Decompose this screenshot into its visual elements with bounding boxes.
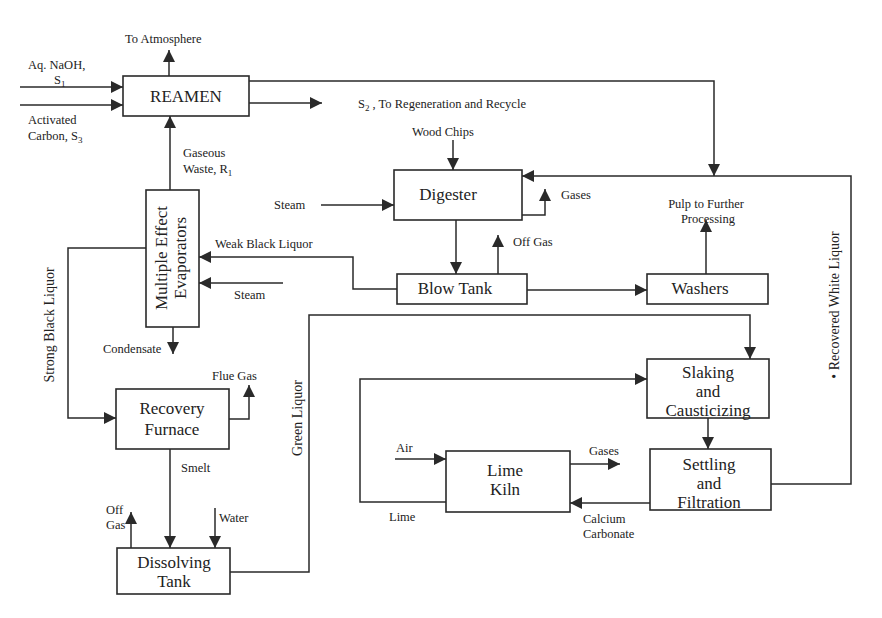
washers-label: Washers [671,279,728,298]
slaking-label-1: Slaking [682,363,734,382]
to-atmosphere-label: To Atmosphere [125,32,202,46]
wood-chips-label: Wood Chips [412,125,474,139]
recovered-white-liquor-label: • Recovered White Liquor [827,231,842,379]
air-label: Air [396,441,414,455]
weak-black-liquor-line [199,257,397,289]
pulp-label-2: Processing [681,212,736,226]
process-flow-diagram: REAMEN Multiple Effect Evaporators Diges… [0,0,882,618]
offgas-dissolving-label-2: Gas [106,518,126,532]
recovery-furnace-label-1: Recovery [139,399,205,418]
flue-gas-arrow [229,385,249,419]
dissolving-tank-label-1: Dissolving [137,553,211,572]
steam-digester-label: Steam [274,198,306,212]
carbon-label-2: Carbon, S3 [28,129,83,145]
unit-evaporators: Multiple Effect Evaporators [146,190,199,327]
digester-gases-arrow [522,189,545,215]
unit-washers: Washers [647,274,768,304]
lime-kiln-label-1: Lime [487,461,523,480]
naoh-label-1: Aq. NaOH, [28,58,85,72]
kiln-gases-label: Gases [589,444,619,458]
unit-digester: Digester [394,170,522,220]
carbon-label-1: Activated [28,113,77,127]
green-liquor-label: Green Liquor [290,380,305,456]
water-label: Water [219,511,249,525]
strong-black-liquor-label: Strong Black Liquor [42,267,57,382]
unit-settling: Settling and Filtration [650,449,771,512]
flue-gas-label: Flue Gas [212,369,257,383]
unit-lime-kiln: Lime Kiln [446,451,570,512]
unit-dissolving-tank: Dissolving Tank [117,548,230,594]
reamen-to-white-liquor-line [249,81,714,176]
caco3-label-1: Calcium [583,512,626,526]
slaking-label-2: and [696,382,721,401]
evaporators-label-2: Evaporators [171,217,190,299]
lime-kiln-label-2: Kiln [490,480,521,499]
gaseous-waste-label-2: Waste, R1 [183,162,232,178]
settling-label-1: Settling [683,455,736,474]
settling-label-2: and [697,474,722,493]
offgas-dissolving-label-1: Off [106,503,124,517]
unit-blow-tank: Blow Tank [397,274,527,304]
dissolving-tank-label-2: Tank [157,572,191,591]
pulp-label-1: Pulp to Further [668,197,745,211]
blow-tank-label: Blow Tank [418,279,493,298]
reamen-label: REAMEN [150,87,222,106]
weak-black-liquor-label: Weak Black Liquor [215,237,313,251]
digester-gases-label: Gases [561,188,591,202]
condensate-label: Condensate [103,342,162,356]
lime-label: Lime [389,510,416,524]
caco3-label-2: Carbonate [583,527,635,541]
green-liquor-line [230,315,750,572]
gaseous-waste-label-1: Gaseous [183,146,225,160]
recovery-furnace-label-2: Furnace [145,420,200,439]
unit-slaking: Slaking and Causticizing [647,359,769,420]
unit-reamen: REAMEN [123,76,249,116]
evaporators-label-1: Multiple Effect [152,206,171,310]
smelt-label: Smelt [181,461,211,475]
digester-label: Digester [419,185,477,204]
settling-label-3: Filtration [677,493,741,512]
blowtank-offgas-label: Off Gas [513,235,553,249]
s2-label: S2 , To Regeneration and Recycle [358,97,526,113]
unit-recovery-furnace: Recovery Furnace [116,389,229,449]
naoh-label-2: S1 [54,73,65,89]
slaking-label-3: Causticizing [666,401,751,420]
steam-evaporator-label: Steam [234,288,266,302]
